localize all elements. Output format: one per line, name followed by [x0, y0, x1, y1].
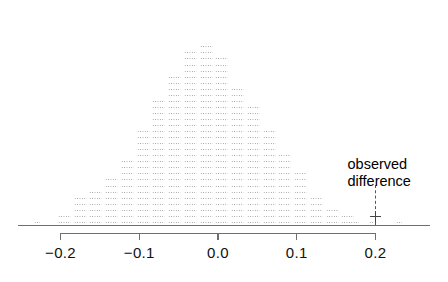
dot-mark	[215, 215, 228, 218]
axis-tick-bracket	[61, 233, 376, 234]
dot-mark	[121, 209, 134, 212]
dot-mark	[137, 160, 150, 163]
dot-mark	[184, 64, 197, 67]
dot-mark	[247, 209, 260, 212]
dot-mark	[105, 215, 118, 218]
dot-mark	[231, 209, 244, 212]
dot-mark	[184, 57, 197, 60]
dot-mark	[215, 136, 228, 139]
dot-mark	[184, 221, 197, 224]
dot-mark	[168, 148, 181, 151]
dot-mark	[294, 209, 307, 212]
dot-mark	[278, 203, 291, 206]
dot-mark	[263, 221, 276, 224]
dot-mark	[263, 154, 276, 157]
dot-mark	[168, 130, 181, 133]
dot-mark	[200, 100, 213, 103]
dot-mark	[89, 191, 102, 194]
dot-mark	[200, 209, 213, 212]
dot-mark	[263, 130, 276, 133]
dot-mark	[200, 124, 213, 127]
dot-stack-layer	[0, 0, 448, 282]
dot-mark	[231, 154, 244, 157]
dot-mark	[184, 166, 197, 169]
axis-tick-0.2	[375, 233, 376, 240]
dot-mark	[184, 130, 197, 133]
dot-mark	[247, 221, 260, 224]
dot-mark	[215, 203, 228, 206]
dot-mark	[152, 148, 165, 151]
dot-mark	[200, 191, 213, 194]
dot-mark	[231, 142, 244, 145]
dot-mark	[121, 166, 134, 169]
dot-mark	[168, 106, 181, 109]
dot-mark	[168, 76, 181, 79]
dot-mark	[200, 51, 213, 54]
dot-mark	[184, 136, 197, 139]
dot-mark	[200, 215, 213, 218]
observed-difference-marker-vertical	[375, 211, 376, 222]
dot-mark	[137, 154, 150, 157]
dot-mark	[168, 185, 181, 188]
dot-mark	[121, 197, 134, 200]
dot-mark	[152, 191, 165, 194]
dot-mark	[294, 191, 307, 194]
dot-mark	[137, 185, 150, 188]
dot-mark	[200, 118, 213, 121]
dot-mark	[168, 191, 181, 194]
dot-mark	[137, 130, 150, 133]
dot-mark	[121, 221, 134, 224]
dot-mark	[184, 172, 197, 175]
dot-mark	[231, 94, 244, 97]
dot-mark	[263, 136, 276, 139]
dot-mark	[200, 94, 213, 97]
dot-mark	[215, 142, 228, 145]
dot-mark	[184, 178, 197, 181]
dot-mark	[184, 185, 197, 188]
dot-mark	[152, 178, 165, 181]
dot-mark	[278, 209, 291, 212]
dot-mark	[184, 124, 197, 127]
dot-mark	[294, 172, 307, 175]
dot-mark	[168, 166, 181, 169]
dot-mark	[231, 160, 244, 163]
dot-mark	[200, 221, 213, 224]
dot-mark	[247, 172, 260, 175]
dot-mark	[168, 118, 181, 121]
dot-mark	[184, 160, 197, 163]
dot-mark	[74, 197, 87, 200]
dot-mark	[278, 154, 291, 157]
dot-mark	[121, 191, 134, 194]
dot-mark	[263, 166, 276, 169]
dot-mark	[200, 166, 213, 169]
dot-mark	[247, 178, 260, 181]
dot-mark	[231, 197, 244, 200]
dot-mark	[184, 215, 197, 218]
dot-mark	[89, 215, 102, 218]
dot-mark	[326, 221, 339, 224]
dot-mark	[294, 203, 307, 206]
dot-mark	[105, 203, 118, 206]
dot-mark	[137, 203, 150, 206]
dot-mark	[263, 160, 276, 163]
axis-tick-label-0.1: 0.1	[286, 244, 308, 261]
dot-mark	[200, 185, 213, 188]
dot-mark	[215, 106, 228, 109]
dot-mark	[74, 209, 87, 212]
dot-mark	[231, 136, 244, 139]
dot-mark	[152, 142, 165, 145]
dot-mark	[152, 118, 165, 121]
dot-mark	[200, 106, 213, 109]
dot-mark	[168, 100, 181, 103]
axis-tick-label--0.1: −0.1	[124, 244, 155, 261]
dot-mark	[184, 142, 197, 145]
dot-mark	[215, 166, 228, 169]
dot-mark	[310, 203, 323, 206]
dot-mark	[121, 215, 134, 218]
dot-mark	[168, 160, 181, 163]
dot-mark	[152, 130, 165, 133]
dot-mark	[152, 100, 165, 103]
dot-mark	[247, 106, 260, 109]
dot-mark	[247, 203, 260, 206]
dot-mark	[215, 197, 228, 200]
